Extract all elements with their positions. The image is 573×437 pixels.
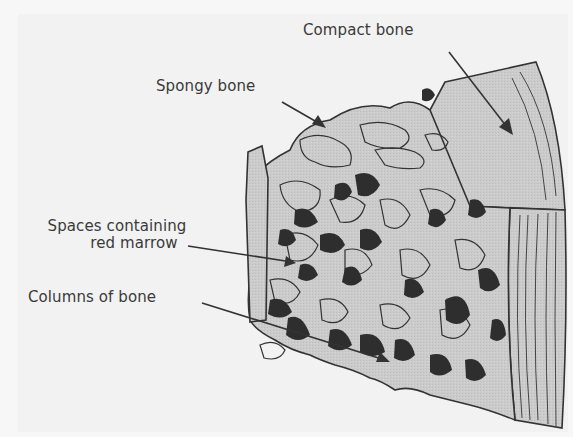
label-spaces-line2: red marrow — [24, 235, 210, 252]
label-columns-of-bone: Columns of bone — [28, 289, 156, 306]
label-spaces-line1: Spaces containing — [24, 218, 210, 235]
label-spaces-red-marrow: Spaces containing red marrow — [24, 218, 210, 252]
label-spongy-bone: Spongy bone — [156, 78, 255, 95]
diagram-canvas: Compact bone Spongy bone Spaces containi… — [0, 0, 573, 437]
bone-column-left — [246, 146, 268, 322]
label-compact-bone: Compact bone — [303, 22, 414, 39]
